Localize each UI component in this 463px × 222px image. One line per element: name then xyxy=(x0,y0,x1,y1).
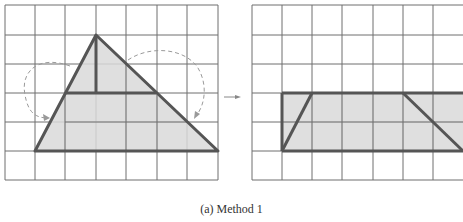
method-1-diagram xyxy=(0,0,463,200)
arrowhead-right-icon xyxy=(194,111,200,119)
figure-caption: (a) Method 1 xyxy=(0,202,463,217)
arrowhead-left-icon xyxy=(43,114,50,121)
transform-arrow-icon xyxy=(224,95,241,99)
